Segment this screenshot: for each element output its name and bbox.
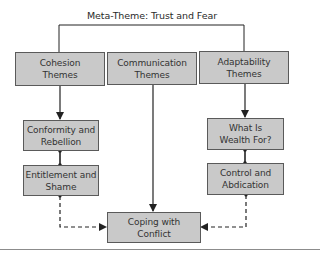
node-adaptability-themes: Adaptability Themes bbox=[199, 51, 289, 84]
edge-control-to-coping bbox=[201, 193, 248, 227]
node-communication-themes: Communication Themes bbox=[107, 52, 197, 85]
meta-theme-bracket bbox=[59, 25, 244, 52]
node-entitlement-and-shame: Entitlement and Shame bbox=[23, 165, 99, 196]
node-conformity-and-rebellion: Conformity and Rebellion bbox=[23, 120, 99, 151]
node-control-and-abdication: Control and Abdication bbox=[207, 163, 284, 195]
edge-entitlement-to-coping bbox=[58, 194, 106, 227]
node-coping-with-conflict: Coping with Conflict bbox=[107, 212, 201, 243]
bottom-divider bbox=[0, 249, 320, 250]
diagram: Meta-Theme: Trust and Fear Cohesion Them… bbox=[0, 0, 321, 259]
node-cohesion-themes: Cohesion Themes bbox=[15, 52, 105, 86]
meta-theme-title: Meta-Theme: Trust and Fear bbox=[60, 10, 244, 21]
node-what-is-wealth-for: What Is Wealth For? bbox=[207, 118, 284, 150]
